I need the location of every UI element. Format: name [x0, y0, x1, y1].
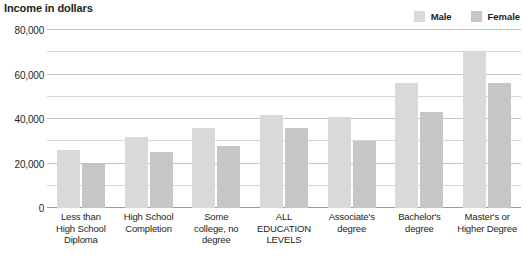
bar-female-master-s-or-higher-degree[interactable] — [488, 83, 511, 208]
chart-legend: MaleFemale — [414, 11, 520, 22]
x-tick-label-line: High School — [111, 211, 187, 223]
x-tick-label-bachelor-s-degree: Bachelor'sdegree — [382, 211, 458, 234]
legend-label-male: Male — [431, 11, 452, 22]
x-tick-label-high-school-completion: High SchoolCompletion — [111, 211, 187, 234]
x-tick-label-line: Bachelor's — [382, 211, 458, 223]
x-tick-label-line: Completion — [111, 223, 187, 235]
bar-female-associate-s-degree[interactable] — [353, 141, 376, 208]
bar-male-master-s-or-higher-degree[interactable] — [463, 52, 486, 208]
x-tick-label-line: Master's or — [449, 211, 525, 223]
legend-label-female: Female — [488, 11, 520, 22]
bar-female-less-than-high-school-diploma[interactable] — [82, 164, 105, 209]
legend-entry-female[interactable]: Female — [471, 11, 520, 22]
legend-swatch-male — [414, 11, 425, 22]
x-axis: Less thanHigh SchoolDiplomaHigh SchoolCo… — [47, 211, 521, 265]
bar-male-associate-s-degree[interactable] — [328, 117, 351, 208]
legend-swatch-female — [471, 11, 482, 22]
bar-female-all-education-levels[interactable] — [285, 128, 308, 208]
bar-group-all-education-levels — [250, 30, 318, 208]
bar-group-bachelor-s-degree — [386, 30, 454, 208]
income-by-education-bar-chart: Income in dollars MaleFemale 020,00040,0… — [0, 0, 526, 265]
x-tick-label-line: Associate's — [314, 211, 390, 223]
bar-group-less-than-high-school-diploma — [47, 30, 115, 208]
bar-male-less-than-high-school-diploma[interactable] — [57, 150, 80, 208]
bar-female-some-college-no-degree[interactable] — [217, 146, 240, 208]
plot-area — [47, 30, 521, 208]
x-tick-label-less-than-high-school-diploma: Less thanHigh SchoolDiploma — [43, 211, 119, 246]
x-tick-label-line: LEVELS — [246, 234, 322, 246]
x-tick-label-line: Some — [178, 211, 254, 223]
bar-group-high-school-completion — [115, 30, 183, 208]
bar-female-high-school-completion[interactable] — [150, 152, 173, 208]
x-tick-label-all-education-levels: ALLEDUCATIONLEVELS — [246, 211, 322, 246]
y-axis: 020,00040,00060,00080,000 — [0, 30, 44, 208]
x-tick-label-some-college-no-degree: Somecollege, nodegree — [178, 211, 254, 246]
bar-series-container — [47, 30, 521, 208]
x-tick-label-line: degree — [382, 223, 458, 235]
bar-male-bachelor-s-degree[interactable] — [395, 83, 418, 208]
bar-group-associate-s-degree — [318, 30, 386, 208]
y-tick-label-40000: 40,000 — [0, 114, 44, 125]
y-tick-label-0: 0 — [0, 203, 44, 214]
x-tick-label-line: ALL — [246, 211, 322, 223]
y-tick-label-20000: 20,000 — [0, 158, 44, 169]
y-tick-label-80000: 80,000 — [0, 25, 44, 36]
x-tick-label-line: Higher Degree — [449, 223, 525, 235]
x-tick-label-associate-s-degree: Associate'sdegree — [314, 211, 390, 234]
x-tick-label-line: Diploma — [43, 234, 119, 246]
bar-female-bachelor-s-degree[interactable] — [420, 112, 443, 208]
bar-group-some-college-no-degree — [182, 30, 250, 208]
y-tick-label-60000: 60,000 — [0, 69, 44, 80]
x-tick-label-line: High School — [43, 223, 119, 235]
bar-male-high-school-completion[interactable] — [125, 137, 148, 208]
x-tick-label-line: degree — [178, 234, 254, 246]
x-tick-label-master-s-or-higher-degree: Master's orHigher Degree — [449, 211, 525, 234]
bar-male-all-education-levels[interactable] — [260, 115, 283, 208]
x-tick-label-line: Less than — [43, 211, 119, 223]
x-tick-label-line: EDUCATION — [246, 223, 322, 235]
x-tick-label-line: college, no — [178, 223, 254, 235]
legend-entry-male[interactable]: Male — [414, 11, 452, 22]
bar-male-some-college-no-degree[interactable] — [192, 128, 215, 208]
x-tick-label-line: degree — [314, 223, 390, 235]
chart-title: Income in dollars — [4, 2, 93, 14]
bar-group-master-s-or-higher-degree — [453, 30, 521, 208]
